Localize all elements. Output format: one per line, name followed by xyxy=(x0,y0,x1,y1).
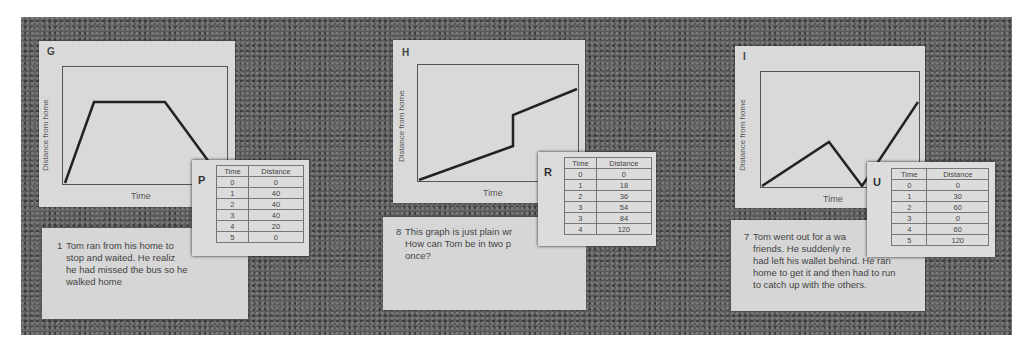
table-row: 00 xyxy=(217,177,304,188)
table-cell: 2 xyxy=(565,191,597,202)
table-row: 30 xyxy=(892,213,989,224)
table-cell: 0 xyxy=(217,177,249,188)
table-cell: 40 xyxy=(248,210,303,221)
table-row: 236 xyxy=(565,191,652,202)
graph-letter: H xyxy=(402,47,409,58)
table-cell: 2 xyxy=(892,202,927,213)
y-axis-label: Distance from home xyxy=(397,102,406,162)
table-cell: 36 xyxy=(596,191,651,202)
table-cell: 18 xyxy=(596,180,651,191)
table-cell: 1 xyxy=(217,188,249,199)
table-row: 460 xyxy=(892,224,989,235)
table-cell: 30 xyxy=(927,191,989,202)
table-cell: 120 xyxy=(927,235,989,246)
table-cell: 40 xyxy=(248,199,303,210)
table-letter: P xyxy=(198,174,205,186)
story-number: 7 xyxy=(744,231,749,242)
table-cell: 3 xyxy=(565,213,597,224)
table-cell: 120 xyxy=(596,224,651,235)
x-axis-label: Time xyxy=(483,188,503,198)
table-cell: 3 xyxy=(892,213,927,224)
table-row: 260 xyxy=(892,202,989,213)
table-row: 354 xyxy=(565,202,652,213)
story-text-line: once? xyxy=(405,250,431,262)
table-cell: 2 xyxy=(217,199,249,210)
story-text-line: home to get it and then had to run xyxy=(753,267,896,279)
story-text-line: This graph is just plain wr xyxy=(405,226,512,238)
table-cell: 0 xyxy=(927,213,989,224)
story-text-line: stop and waited. He realiz xyxy=(66,252,175,264)
table-cell: 3 xyxy=(217,210,249,221)
table-header: Time xyxy=(892,169,927,180)
table-card-r: R TimeDistance 00 118 236 354 384 4120 xyxy=(538,152,656,246)
table-row: 00 xyxy=(565,169,652,180)
table-row: 5120 xyxy=(892,235,989,246)
table-cell: 0 xyxy=(248,177,303,188)
x-axis-label: Time xyxy=(131,191,151,201)
story-text-line: walked home xyxy=(66,276,122,288)
story-text-line: Tom went out for a wa xyxy=(753,231,846,243)
table-header: Time xyxy=(565,158,597,169)
x-axis-label: Time xyxy=(823,194,843,204)
table-cell: 0 xyxy=(892,180,927,191)
story-text-line: Tom ran from his home to xyxy=(66,240,174,252)
table-cell: 5 xyxy=(892,235,927,246)
table-card-u: U TimeDistance 00 130 260 30 460 5120 xyxy=(867,162,995,257)
data-table: TimeDistance 00 130 260 30 460 5120 xyxy=(891,168,989,246)
table-cell: 0 xyxy=(248,232,303,243)
y-axis-label: Distance from home xyxy=(41,111,50,171)
table-cell: 20 xyxy=(248,221,303,232)
table-cell: 3 xyxy=(565,202,597,213)
table-header: Time xyxy=(217,166,249,177)
table-header: Distance xyxy=(927,169,989,180)
table-row: 118 xyxy=(565,180,652,191)
table-row: 240 xyxy=(217,199,304,210)
data-table: TimeDistance 00 140 240 340 420 50 xyxy=(216,165,304,243)
table-row: 4120 xyxy=(565,224,652,235)
table-header: Distance xyxy=(248,166,303,177)
table-cell: 0 xyxy=(927,180,989,191)
story-number: 8 xyxy=(396,226,401,237)
table-row: 00 xyxy=(892,180,989,191)
table-cell: 4 xyxy=(565,224,597,235)
table-row: 384 xyxy=(565,213,652,224)
table-row: 50 xyxy=(217,232,304,243)
table-cell: 0 xyxy=(565,169,597,180)
table-cell: 5 xyxy=(217,232,249,243)
table-row: 140 xyxy=(217,188,304,199)
table-card-p: P TimeDistance 00 140 240 340 420 50 xyxy=(192,160,309,256)
table-cell: 4 xyxy=(892,224,927,235)
table-cell: 1 xyxy=(892,191,927,202)
table-cell: 60 xyxy=(927,224,989,235)
table-cell: 40 xyxy=(248,188,303,199)
story-number: 1 xyxy=(57,240,62,251)
y-axis-label: Distance from home xyxy=(738,111,747,171)
table-cell: 84 xyxy=(596,213,651,224)
table-cell: 1 xyxy=(565,180,597,191)
table-row: 420 xyxy=(217,221,304,232)
table-cell: 60 xyxy=(927,202,989,213)
story-text-line: to catch up with the others. xyxy=(753,279,867,291)
data-table: TimeDistance 00 118 236 354 384 4120 xyxy=(564,157,652,235)
story-text-line: friends. He suddenly re xyxy=(753,243,851,255)
graph-letter: I xyxy=(743,51,746,62)
table-letter: R xyxy=(544,166,552,178)
graph-letter: G xyxy=(47,46,55,57)
table-cell: 54 xyxy=(596,202,651,213)
table-cell: 0 xyxy=(596,169,651,180)
table-row: 130 xyxy=(892,191,989,202)
table-letter: U xyxy=(873,176,881,188)
table-row: 340 xyxy=(217,210,304,221)
story-text-line: he had missed the bus so he xyxy=(66,264,187,276)
table-cell: 4 xyxy=(217,221,249,232)
story-text-line: How can Tom be in two p xyxy=(405,238,511,250)
table-header: Distance xyxy=(596,158,651,169)
